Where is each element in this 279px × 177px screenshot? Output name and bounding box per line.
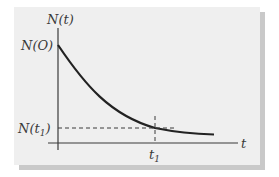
n-t1-label: N(t1) — [17, 121, 50, 138]
x-axis-label: t — [241, 136, 247, 151]
decay-curve — [58, 45, 214, 135]
y-axis-label: N(t) — [46, 12, 74, 27]
t1-label: t1 — [149, 147, 160, 164]
decay-diagram: N(t) N(O) N(t1) t1 t — [0, 0, 279, 177]
initial-value-label: N(O) — [20, 38, 53, 53]
